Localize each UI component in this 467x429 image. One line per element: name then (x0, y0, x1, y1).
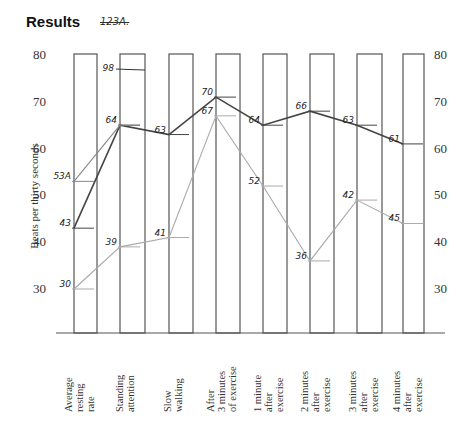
annotation-label: 98 (103, 63, 115, 73)
category-column (120, 54, 145, 333)
x-category-label: Standing (114, 374, 125, 412)
x-category-label: 2 minutes (299, 371, 310, 412)
y-axis-label: Beats per thirty seconds (28, 143, 40, 248)
x-category-label: exercise (369, 377, 380, 412)
series-line (74, 116, 403, 289)
category-column (263, 54, 287, 333)
data-point-label: 36 (296, 251, 308, 261)
data-point-label: 52 (249, 176, 261, 186)
y-tick-left: 70 (33, 94, 46, 109)
y-tick-right: 30 (434, 281, 447, 296)
x-category-label: rate (85, 396, 96, 412)
category-column (357, 54, 382, 333)
y-tick-right: 40 (434, 234, 447, 249)
x-category-label: after (310, 392, 321, 412)
y-tick-left: 30 (33, 281, 46, 296)
data-point-label: 61 (389, 134, 400, 144)
x-category-label: 1 minute (252, 375, 263, 412)
data-point-label: 45 (389, 213, 401, 223)
y-tick-right: 80 (434, 47, 447, 62)
data-point-label: 70 (202, 87, 214, 97)
y-tick-right: 50 (434, 187, 447, 202)
data-point-label: 63 (155, 125, 167, 135)
x-category-label: after (402, 392, 413, 412)
x-category-label: exercise (413, 377, 424, 412)
x-category-label: Slow (162, 390, 173, 412)
y-tick-right: 60 (434, 141, 447, 156)
x-category-label: attention (125, 375, 136, 412)
x-category-label: walking (173, 377, 184, 412)
x-category-label: After (205, 389, 216, 412)
data-point-label: 39 (106, 237, 118, 247)
category-column (74, 54, 97, 333)
data-point-label: 64 (106, 115, 118, 125)
x-category-label: 4 minutes (391, 371, 402, 412)
data-point-label: 53A (53, 171, 71, 181)
data-point-label: 64 (249, 115, 261, 125)
x-category-label: exercise (321, 377, 332, 412)
data-point-label: 67 (202, 106, 214, 116)
category-column (310, 54, 334, 333)
category-column (403, 54, 424, 333)
data-point-label: 63 (343, 115, 355, 125)
data-point-label: 66 (296, 101, 308, 111)
x-category-label: resting (74, 383, 85, 412)
x-category-label: of exercise (227, 366, 238, 412)
data-point-label: 41 (155, 228, 166, 238)
y-tick-left: 80 (33, 47, 46, 62)
x-category-label: 3 minutes (347, 371, 358, 412)
data-point-label: 30 (60, 279, 72, 289)
x-category-label: exercise (274, 377, 285, 412)
x-category-label: after (358, 392, 369, 412)
y-tick-right: 70 (434, 94, 447, 109)
data-point-label: 43 (60, 218, 72, 228)
x-category-label: after (263, 392, 274, 412)
category-column (216, 54, 240, 333)
category-column (169, 54, 193, 333)
data-point-label: 42 (343, 190, 355, 200)
x-category-label: Average (63, 377, 74, 412)
x-category-label: 3 minutes (216, 371, 227, 412)
heart-rate-chart: 304050607080304050607080Beats per thirty… (0, 0, 467, 429)
